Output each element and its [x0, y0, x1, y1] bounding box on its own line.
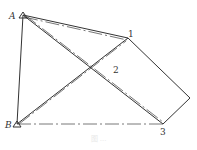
building-outline: [128, 38, 190, 124]
sight-line-A3: [23, 15, 163, 124]
figure-caption: 图 ...: [0, 133, 197, 143]
label-B: B: [4, 120, 12, 130]
label-2: 2: [113, 65, 119, 75]
survey-diagram: A B 1 2 3 图 ...: [0, 0, 197, 150]
sight-line-A1-dash: [24, 17, 127, 40]
label-1: 1: [128, 29, 134, 39]
diagram-svg: A B 1 2 3: [0, 0, 197, 150]
baseline-AB: [17, 15, 23, 124]
label-A: A: [8, 11, 16, 21]
sight-line-A1: [23, 15, 128, 38]
sight-line-B1: [17, 38, 128, 124]
